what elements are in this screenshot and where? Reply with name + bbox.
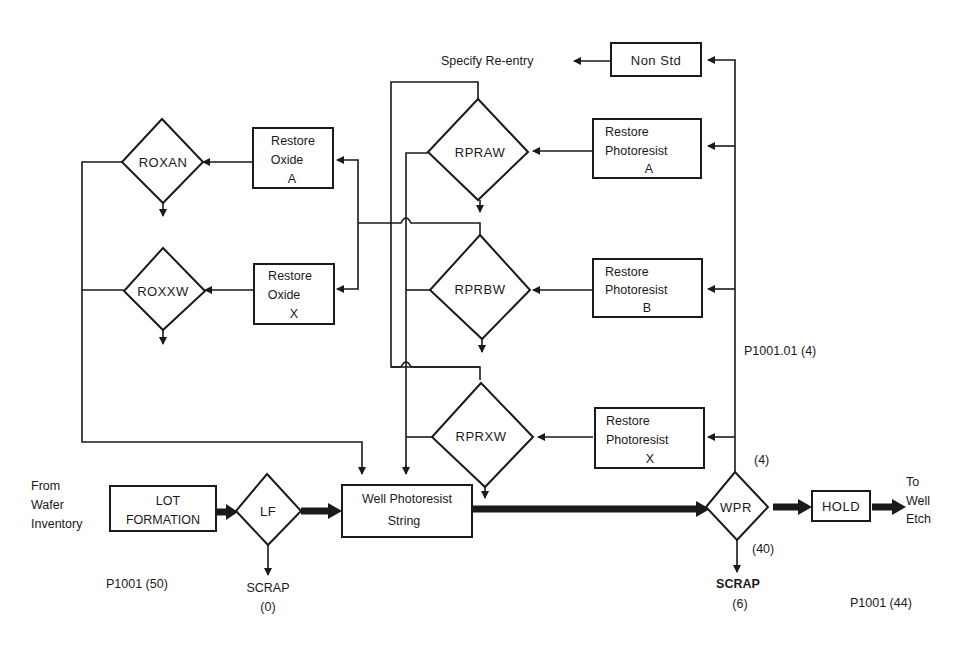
restore-ox-x-line2: Oxide [268, 288, 301, 302]
node-roxxw[interactable]: ROXXW [124, 248, 205, 330]
restore-pr-a-line2: Photoresist [605, 144, 668, 158]
connector-wpr-nonstd [708, 60, 735, 478]
node-restore-oxide-x[interactable]: Restore Oxide X [254, 264, 334, 324]
lf-label: LF [260, 504, 276, 519]
from-wafer-line2: Wafer [31, 498, 64, 512]
node-rprbw[interactable]: RPRBW [430, 235, 530, 339]
restore-pr-x-line1: Restore [606, 414, 650, 428]
restore-ox-a-line3: A [288, 172, 297, 186]
restore-ox-x-line3: X [290, 307, 299, 321]
connector-feed-restore-ox-x [337, 223, 358, 289]
wpr-up-count: (4) [754, 453, 769, 467]
from-wafer-line1: From [31, 479, 60, 493]
node-restore-photoresist-b[interactable]: Restore Photoresist B [593, 259, 702, 317]
wps-line2: String [388, 514, 421, 528]
main-flow [217, 499, 906, 520]
hold-label: HOLD [822, 499, 860, 514]
node-rprxw[interactable]: RPRXW [432, 383, 533, 487]
rpr-left-bus [406, 153, 428, 468]
wpr-scrap-count: (6) [732, 597, 747, 611]
lf-scrap-count: (0) [260, 600, 275, 614]
from-wafer-line3: Inventory [31, 517, 83, 531]
process-flow-diagram: Non Std Restore Photoresist A Restore Ph… [0, 0, 973, 650]
lot-formation-line1: LOT [156, 494, 181, 508]
restore-pr-b-line3: B [643, 301, 651, 315]
p1001-50-label: P1001 (50) [106, 577, 168, 591]
restore-ox-a-line2: Oxide [271, 153, 304, 167]
rprbw-label: RPRBW [455, 282, 506, 297]
wpr-label: WPR [720, 500, 752, 515]
wpr-pass-count: (40) [752, 542, 774, 556]
restore-pr-x-line2: Photoresist [606, 433, 669, 447]
wpr-scrap-label: SCRAP [716, 577, 760, 591]
flow-wpr-hold-head [798, 499, 812, 515]
to-well-etch-line1: To [906, 475, 919, 489]
node-lot-formation[interactable]: LOT FORMATION [110, 486, 216, 531]
rprxw-label: RPRXW [456, 429, 507, 444]
restore-pr-b-line1: Restore [605, 265, 649, 279]
node-restore-photoresist-x[interactable]: Restore Photoresist X [595, 408, 704, 468]
node-roxan[interactable]: ROXAN [122, 119, 203, 203]
rpraw-label: RPRAW [455, 145, 506, 160]
restore-pr-x-line3: X [646, 452, 655, 466]
node-wpr[interactable]: WPR [706, 472, 768, 540]
node-well-photoresist-string[interactable]: Well Photoresist String [342, 485, 472, 537]
p1001-01-4-label: P1001.01 (4) [744, 344, 816, 358]
lot-formation-line2: FORMATION [126, 513, 200, 527]
restore-ox-x-line1: Restore [268, 269, 312, 283]
flow-lf-wps-head [328, 503, 342, 519]
specify-reentry-label: Specify Re-entry [441, 54, 534, 68]
oxide-restore-feed [358, 218, 480, 235]
restore-pr-a-line1: Restore [605, 125, 649, 139]
p1001-44-label: P1001 (44) [850, 596, 912, 610]
roxan-label: ROXAN [139, 155, 188, 170]
restore-pr-b-line2: Photoresist [605, 283, 668, 297]
restore-pr-a-line3: A [645, 162, 654, 176]
connector-feed-restore-ox-a [337, 160, 358, 223]
node-non-std[interactable]: Non Std [611, 43, 701, 76]
restore-ox-a-line1: Restore [271, 134, 315, 148]
to-well-etch-line3: Etch [906, 512, 931, 526]
node-non-std-label: Non Std [631, 53, 681, 68]
roxxw-label: ROXXW [137, 284, 189, 299]
node-restore-photoresist-a[interactable]: Restore Photoresist A [593, 119, 701, 178]
lf-scrap-label: SCRAP [246, 581, 289, 595]
node-lf[interactable]: LF [236, 474, 301, 545]
wps-line1: Well Photoresist [362, 492, 453, 506]
node-hold[interactable]: HOLD [812, 491, 870, 521]
flow-hold-etch-head [892, 499, 906, 515]
node-restore-oxide-a[interactable]: Restore Oxide A [253, 128, 333, 188]
node-rpraw[interactable]: RPRAW [428, 99, 528, 200]
to-well-etch-line2: Well [906, 494, 930, 508]
